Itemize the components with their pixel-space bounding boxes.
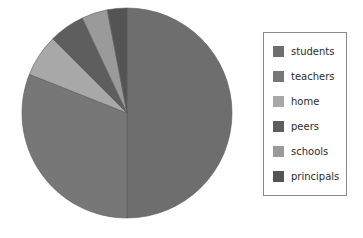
legend-label-principals: principals <box>291 171 339 182</box>
legend-item-peers[interactable]: peers <box>273 117 346 137</box>
legend-label-home: home <box>291 96 319 107</box>
legend-item-home[interactable]: home <box>273 92 346 112</box>
pie-slice-students[interactable] <box>127 8 232 218</box>
legend-swatch-home <box>273 96 284 107</box>
legend-swatch-students <box>273 46 284 57</box>
legend-label-schools: schools <box>291 146 328 157</box>
legend-label-peers: peers <box>291 121 319 132</box>
legend-item-students[interactable]: students <box>273 42 346 62</box>
legend-swatch-teachers <box>273 71 284 82</box>
legend-item-teachers[interactable]: teachers <box>273 67 346 87</box>
legend-label-students: students <box>291 46 334 57</box>
legend-label-teachers: teachers <box>291 71 335 82</box>
legend-item-principals[interactable]: principals <box>273 167 346 187</box>
legend-swatch-principals <box>273 171 284 182</box>
chart-legend: students teachers home peers schools pri… <box>263 32 347 196</box>
legend-swatch-peers <box>273 121 284 132</box>
legend-item-schools[interactable]: schools <box>273 142 346 162</box>
legend-swatch-schools <box>273 146 284 157</box>
pie-chart-figure: students teachers home peers schools pri… <box>0 0 363 238</box>
pie-slices-group <box>22 8 232 218</box>
